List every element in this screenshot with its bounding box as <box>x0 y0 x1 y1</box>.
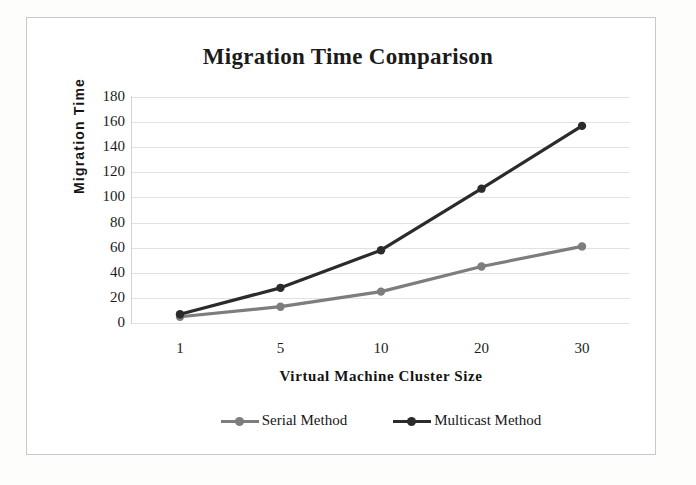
y-tick-label: 40 <box>85 264 125 281</box>
data-point[interactable] <box>276 284 284 292</box>
data-point[interactable] <box>276 302 284 310</box>
x-tick-label: 30 <box>552 340 612 357</box>
y-tick-label: 60 <box>85 239 125 256</box>
data-point[interactable] <box>377 287 385 295</box>
y-tick-label: 140 <box>85 138 125 155</box>
legend-swatch-multicast-icon <box>393 415 431 427</box>
data-point[interactable] <box>477 262 485 270</box>
legend-item-serial[interactable]: Serial Method <box>221 412 347 429</box>
x-tick-label: 20 <box>452 340 512 357</box>
gridline <box>132 323 630 324</box>
y-tick-label: 160 <box>85 113 125 130</box>
y-tick-label: 80 <box>85 214 125 231</box>
series-line-multicast <box>180 126 582 314</box>
plot-area <box>132 97 630 323</box>
data-point[interactable] <box>477 184 485 192</box>
series-plot <box>132 97 630 323</box>
legend-label-serial: Serial Method <box>262 412 347 429</box>
data-point[interactable] <box>578 242 586 250</box>
legend-label-multicast: Multicast Method <box>434 412 541 429</box>
x-tick-label: 10 <box>351 340 411 357</box>
y-tick-label: 120 <box>85 163 125 180</box>
x-tick-label: 5 <box>251 340 311 357</box>
data-point[interactable] <box>578 122 586 130</box>
x-axis-tick-labels: 15102030 <box>132 340 630 362</box>
x-tick-label: 1 <box>150 340 210 357</box>
legend-item-multicast[interactable]: Multicast Method <box>393 412 541 429</box>
series-line-serial <box>180 246 582 316</box>
legend-swatch-serial-icon <box>221 415 259 427</box>
chart-legend: Serial Method Multicast Method <box>132 412 630 429</box>
data-point[interactable] <box>176 310 184 318</box>
y-tick-label: 100 <box>85 188 125 205</box>
y-tick-label: 20 <box>85 289 125 306</box>
data-point[interactable] <box>377 246 385 254</box>
y-tick-label: 0 <box>85 314 125 331</box>
y-axis-tick-labels: 020406080100120140160180 <box>80 0 125 485</box>
x-axis-title: Virtual Machine Cluster Size <box>132 368 630 385</box>
y-tick-label: 180 <box>85 88 125 105</box>
